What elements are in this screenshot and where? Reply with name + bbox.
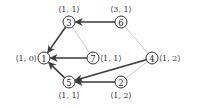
node-number: 6 (118, 18, 123, 28)
node-label: ⟨1, 0⟩ (15, 54, 37, 63)
node-4: 4⟨1, 2⟩ (146, 52, 181, 64)
node-label: ⟨1, 1⟩ (100, 54, 122, 63)
edge-3-7 (72, 27, 89, 53)
node-7: 7⟨1, 1⟩ (87, 52, 122, 64)
node-label: ⟨3, 1⟩ (110, 5, 132, 14)
arrow-4-to-5 (75, 60, 146, 81)
node-number: 7 (90, 54, 95, 64)
node-1: 1⟨1, 0⟩ (15, 52, 50, 64)
node-2: 2⟨1, 2⟩ (110, 76, 132, 100)
graph-diagram: 1⟨1, 0⟩2⟨1, 2⟩3⟨1, 1⟩4⟨1, 2⟩5⟨1, 1⟩6⟨3, … (0, 0, 199, 108)
node-label: ⟨1, 2⟩ (159, 54, 181, 63)
arrow-3-to-1 (48, 27, 66, 53)
node-3: 3⟨1, 1⟩ (58, 5, 80, 29)
node-label: ⟨1, 2⟩ (110, 91, 132, 100)
arrow-5-to-1 (49, 63, 65, 78)
directed-edges (48, 22, 147, 82)
edge-6-4 (125, 27, 148, 54)
node-number: 5 (66, 78, 71, 88)
nodes: 1⟨1, 0⟩2⟨1, 2⟩3⟨1, 1⟩4⟨1, 2⟩5⟨1, 1⟩6⟨3, … (15, 5, 180, 100)
node-number: 1 (41, 54, 46, 64)
node-6: 6⟨3, 1⟩ (110, 5, 132, 29)
node-label: ⟨1, 1⟩ (58, 91, 80, 100)
node-label: ⟨1, 1⟩ (58, 5, 80, 14)
node-number: 3 (66, 18, 71, 28)
node-number: 4 (149, 54, 154, 64)
node-number: 2 (118, 78, 123, 88)
